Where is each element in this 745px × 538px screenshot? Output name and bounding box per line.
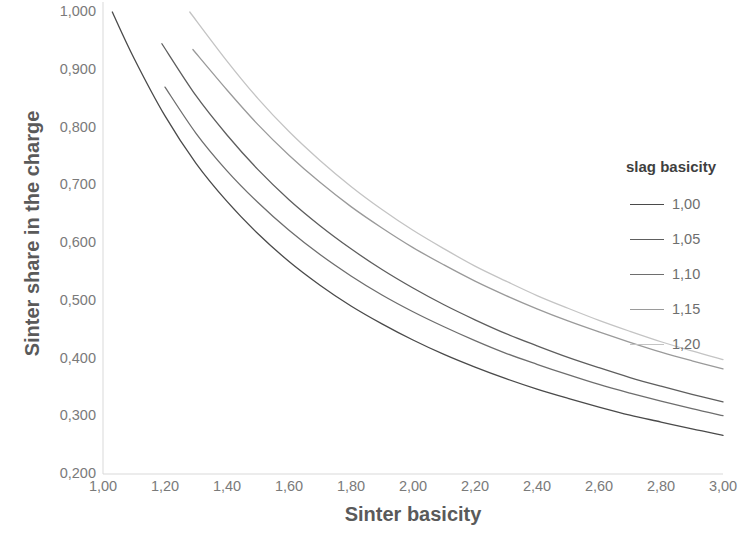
legend-item[interactable]: 1,10	[612, 259, 742, 289]
legend-item-label: 1,05	[672, 231, 700, 247]
legend-item-label: 1,15	[672, 301, 700, 317]
legend-item[interactable]: 1,20	[612, 329, 742, 359]
legend-item[interactable]: 1,05	[612, 224, 742, 254]
legend-line-swatch	[630, 204, 664, 205]
legend-title: slag basicity	[626, 158, 742, 175]
legend-line-swatch	[630, 274, 664, 275]
legend-line-swatch	[630, 239, 664, 240]
legend-item-label: 1,00	[672, 196, 700, 212]
legend-item-label: 1,20	[672, 336, 700, 352]
legend-item[interactable]: 1,00	[612, 189, 742, 219]
legend-line-swatch	[630, 344, 664, 345]
legend-item[interactable]: 1,15	[612, 294, 742, 324]
legend-line-swatch	[630, 309, 664, 310]
chart-container: Sinter share in the charge Sinter basici…	[0, 0, 745, 538]
chart-legend: slag basicity 1,001,051,101,151,20	[612, 158, 742, 364]
legend-item-label: 1,10	[672, 266, 700, 282]
